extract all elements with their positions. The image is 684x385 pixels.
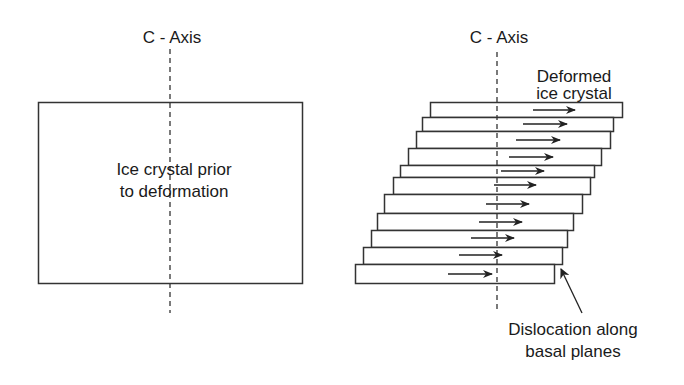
undeformed-label-line1: Ice crystal prior (116, 160, 232, 179)
pointer-arrow-icon (561, 269, 582, 313)
basal-plate (378, 214, 574, 231)
basal-plate (431, 103, 623, 118)
basal-plates (356, 103, 623, 284)
right-c-axis-label: C - Axis (470, 28, 529, 47)
basal-plate (385, 195, 583, 214)
basal-plate (423, 118, 614, 132)
basal-plate (409, 149, 602, 166)
left-c-axis-label: C - Axis (143, 28, 202, 47)
deformed-label-line2: ice crystal (536, 84, 612, 103)
basal-plate (364, 248, 563, 265)
left-panel: C - Axis Ice crystal prior to deformatio… (39, 28, 303, 313)
basal-plate (372, 231, 568, 248)
dislocation-label-line2: basal planes (525, 342, 620, 361)
ice-crystal-deformation-diagram: C - Axis Ice crystal prior to deformatio… (0, 0, 684, 385)
dislocation-label-line1: Dislocation along (508, 320, 637, 339)
basal-plate (394, 178, 591, 195)
basal-plate (417, 132, 611, 149)
right-panel: C - Axis Deformed ice crystal (356, 28, 638, 361)
undeformed-label-line2: to deformation (120, 182, 229, 201)
